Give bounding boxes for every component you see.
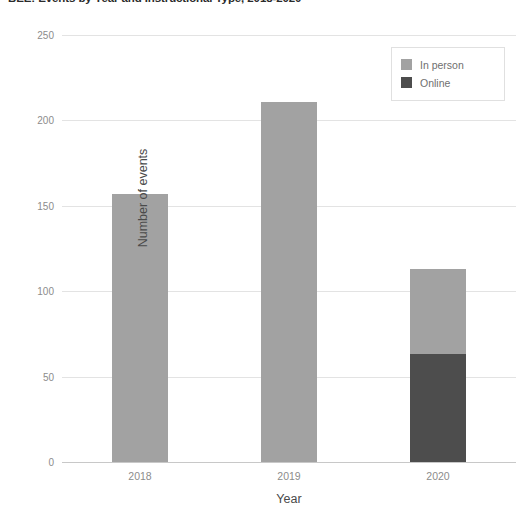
y-tick-label-250: 250	[8, 30, 54, 41]
gridline-250	[62, 35, 516, 36]
bar-chart: BEE: Events by Year and Instructional Ty…	[0, 0, 527, 516]
y-axis-title-wrap: Number of events	[118, 190, 119, 191]
x-axis-line	[62, 462, 516, 463]
legend-swatch-online	[401, 77, 412, 88]
y-tick-label-100: 100	[8, 286, 54, 297]
chart-title: BEE: Events by Year and Instructional Ty…	[8, 0, 523, 8]
y-axis-ticks: 250 200 150 100 50 0	[4, 35, 54, 462]
x-tick-label-2020: 2020	[378, 470, 498, 482]
y-tick-label-0: 0	[8, 457, 54, 468]
y-tick-label-200: 200	[8, 115, 54, 126]
x-tick-label-2019: 2019	[229, 470, 349, 482]
legend-item-online[interactable]: Online	[401, 74, 495, 91]
bar-group-2019[interactable]	[261, 102, 317, 462]
x-axis-title: Year	[62, 492, 516, 506]
legend-label-online: Online	[420, 77, 450, 89]
bar-segment-online-2020[interactable]	[410, 354, 466, 462]
y-tick-label-50: 50	[8, 371, 54, 382]
legend-label-in-person: In person	[420, 59, 464, 71]
bar-segment-in-person-2019[interactable]	[261, 102, 317, 462]
x-tick-label-2018: 2018	[80, 470, 200, 482]
legend-swatch-in-person	[401, 59, 412, 70]
legend-item-in-person[interactable]: In person	[401, 56, 495, 73]
y-axis-title: Number of events	[136, 78, 150, 318]
bar-group-2020[interactable]	[410, 269, 466, 462]
y-tick-label-150: 150	[8, 200, 54, 211]
bar-segment-in-person-2020[interactable]	[410, 269, 466, 354]
legend: In person Online	[391, 47, 505, 101]
